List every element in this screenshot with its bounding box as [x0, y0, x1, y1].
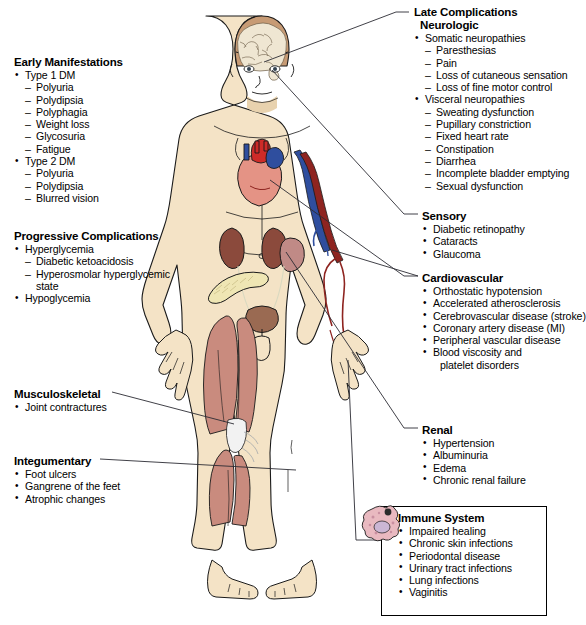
list-item: Pupillary constriction — [425, 118, 569, 130]
list-item: Hyperglycemia — [14, 243, 170, 255]
list-item: Polyphagia — [25, 106, 123, 118]
list-item: Joint contractures — [14, 401, 107, 413]
somatic-sublist: Paresthesias Pain Loss of cutaneous sens… — [414, 44, 569, 93]
hand-right — [331, 330, 368, 400]
section-progressive-complications: Progressive Complications Hyperglycemia … — [14, 230, 170, 304]
section-musculoskeletal: Musculoskeletal Joint contractures — [14, 388, 107, 413]
list-item: Lung infections — [398, 574, 513, 586]
list-item: Fixed heart rate — [425, 130, 569, 142]
list-item: Type 2 DM — [14, 155, 123, 167]
section-immune-system: Immune System Impaired healing Chronic s… — [398, 512, 513, 599]
list-item: Peripheral vascular disease — [422, 334, 586, 346]
type2-group: Type 2 DM — [14, 155, 123, 167]
immune-system-title: Immune System — [398, 512, 513, 525]
list-item: Polydipsia — [25, 94, 123, 106]
list-item: Periodontal disease — [398, 550, 513, 562]
type1-sublist: Polyuria Polydipsia Polyphagia Weight lo… — [14, 81, 123, 155]
list-item: Somatic neuropathies — [414, 32, 569, 44]
knee-line-right — [291, 440, 292, 454]
list-item: Polydipsia — [25, 180, 123, 192]
section-late-complications: Late Complications Neurologic Somatic ne… — [414, 6, 569, 192]
ear-right — [291, 64, 294, 77]
nose — [256, 76, 260, 88]
list-item: Orthostatic hypotension — [422, 285, 586, 297]
list-item: Albuminuria — [422, 449, 526, 461]
section-sensory: Sensory Diabetic retinopathy Cataracts G… — [422, 210, 525, 260]
list-item: Diabetic ketoacidosis — [25, 255, 170, 267]
list-item: Paresthesias — [425, 44, 569, 56]
list-item: Accelerated atherosclerosis — [422, 297, 586, 309]
progressive-complications-title: Progressive Complications — [14, 230, 170, 243]
list-item: Gangrene of the feet — [14, 480, 120, 492]
list-item: Hypoglycemia — [14, 292, 170, 304]
list-item: Weight loss — [25, 118, 123, 130]
list-item-continuation: state — [25, 280, 170, 292]
brain — [238, 23, 287, 80]
list-item: Pain — [425, 57, 569, 69]
list-item: Fatigue — [25, 143, 123, 155]
list-item: Cerebrovascular disease (stroke) — [422, 310, 586, 322]
list-item: Constipation — [425, 143, 569, 155]
list-item: Visceral neuropathies — [414, 93, 569, 105]
list-item: Diarrhea — [425, 155, 569, 167]
list-item: Polyuria — [25, 81, 123, 93]
list-item: Chronic skin infections — [398, 537, 513, 549]
list-item: Glycosuria — [25, 130, 123, 142]
neurologic-subtitle: Neurologic — [414, 19, 569, 32]
renal-list: Hypertension Albuminuria Edema Chronic r… — [422, 437, 526, 486]
list-item: Loss of cutaneous sensation — [425, 69, 569, 81]
early-manifestations-title: Early Manifestations — [14, 56, 123, 69]
mouth — [252, 92, 272, 94]
list-item: Blood viscosity and — [422, 346, 586, 358]
list-item: Impaired healing — [398, 525, 513, 537]
cardiovascular-list: Orthostatic hypotension Accelerated athe… — [422, 285, 586, 371]
list-item: Glaucoma — [422, 248, 525, 260]
renal-title: Renal — [422, 424, 526, 437]
list-item: Chronic renal failure — [422, 474, 526, 486]
list-item: Diabetic retinopathy — [422, 223, 525, 235]
leukocyte-icon — [360, 503, 402, 543]
list-item: Urinary tract infections — [398, 562, 513, 574]
section-early-manifestations: Early Manifestations Type 1 DM Polyuria … — [14, 56, 123, 204]
list-item: Polyuria — [25, 167, 123, 179]
list-item: Vaginitis — [398, 586, 513, 598]
late-complications-title: Late Complications — [414, 6, 569, 19]
list-item: Sexual dysfunction — [425, 180, 569, 192]
hyperglycemia-group: Hyperglycemia — [14, 243, 170, 255]
list-item: Loss of fine motor control — [425, 81, 569, 93]
foot-right — [266, 560, 317, 599]
leg-muscles-calf — [209, 450, 250, 526]
foot-left — [208, 560, 259, 599]
hypoglycemia-group: Hypoglycemia — [14, 292, 170, 304]
list-item: Blurred vision — [25, 192, 123, 204]
cardiovascular-title: Cardiovascular — [422, 272, 586, 285]
list-item: Foot ulcers — [14, 468, 120, 480]
list-item: Incomplete bladder emptying — [425, 167, 569, 179]
musculoskeletal-title: Musculoskeletal — [14, 388, 107, 401]
section-renal: Renal Hypertension Albuminuria Edema Chr… — [422, 424, 526, 486]
list-item: Edema — [422, 462, 526, 474]
list-item: Hypertension — [422, 437, 526, 449]
visceral-sublist: Sweating dysfunction Pupillary constrict… — [414, 106, 569, 192]
list-item: Atrophic changes — [14, 493, 120, 505]
immune-system-list: Impaired healing Chronic skin infections… — [398, 525, 513, 599]
list-item: Sweating dysfunction — [425, 106, 569, 118]
list-item-continuation: platelet disorders — [422, 359, 586, 371]
list-item: Cataracts — [422, 235, 525, 247]
section-integumentary: Integumentary Foot ulcers Gangrene of th… — [14, 455, 120, 505]
hyperglycemia-sublist: Diabetic ketoacidosis Hyperosmolar hyper… — [14, 255, 170, 292]
type2-sublist: Polyuria Polydipsia Blurred vision — [14, 167, 123, 204]
list-item: Hyperosmolar hyperglycemic — [25, 268, 170, 280]
list-item: Coronary artery disease (MI) — [422, 322, 586, 334]
neck-shadow — [247, 96, 277, 113]
sensory-title: Sensory — [422, 210, 525, 223]
early-manifestations-list: Type 1 DM — [14, 69, 123, 81]
somatic-group: Somatic neuropathies — [414, 32, 569, 44]
integumentary-title: Integumentary — [14, 455, 120, 468]
integumentary-list: Foot ulcers Gangrene of the feet Atrophi… — [14, 468, 120, 505]
musculoskeletal-list: Joint contractures — [14, 401, 107, 413]
visceral-group: Visceral neuropathies — [414, 93, 569, 105]
section-cardiovascular: Cardiovascular Orthostatic hypotension A… — [422, 272, 586, 371]
sensory-list: Diabetic retinopathy Cataracts Glaucoma — [422, 223, 525, 260]
